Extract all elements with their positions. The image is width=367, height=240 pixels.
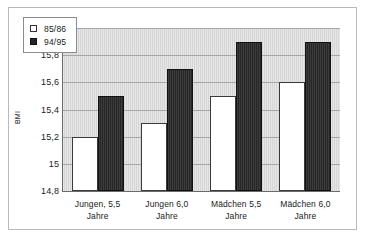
y-axis-tick-label: 15,2 bbox=[23, 132, 59, 142]
x-axis-category-label: Jungen 6,0Jahre bbox=[132, 198, 201, 222]
y-axis-tick-label: 15,4 bbox=[23, 105, 59, 115]
y-axis-tick-label: 15 bbox=[23, 159, 59, 169]
chart-figure: BMI 14,81515,215,415,615,816 85/86 94/95… bbox=[8, 7, 357, 230]
bar bbox=[236, 42, 262, 191]
chart-legend: 85/86 94/95 bbox=[23, 17, 77, 53]
legend-item-label: 85/86 bbox=[44, 24, 66, 34]
x-axis-category-label-line: Jahre bbox=[63, 210, 132, 222]
x-axis-category-label-line: Jungen, 5,5 bbox=[63, 198, 132, 210]
bar bbox=[305, 42, 331, 191]
bar-group bbox=[210, 28, 262, 191]
bar-group bbox=[141, 28, 193, 191]
y-axis-tick-label: 15,6 bbox=[23, 77, 59, 87]
x-axis-category-label-line: Jungen 6,0 bbox=[132, 198, 201, 210]
x-axis-category-label-line: Jahre bbox=[202, 210, 271, 222]
x-axis-category-label: Jungen, 5,5Jahre bbox=[63, 198, 132, 222]
legend-item: 94/95 bbox=[30, 35, 66, 48]
x-axis-category-label-line: Mädchen 5,5 bbox=[202, 198, 271, 210]
x-axis-category-label-line: Jahre bbox=[132, 210, 201, 222]
x-axis-category-label-line: Mädchen 6,0 bbox=[271, 198, 340, 210]
y-axis-tick-label: 14,8 bbox=[23, 186, 59, 196]
x-axis-category-label: Mädchen 5,5Jahre bbox=[202, 198, 271, 222]
x-axis-category-labels: Jungen, 5,5JahreJungen 6,0JahreMädchen 5… bbox=[63, 198, 340, 232]
bar bbox=[72, 137, 98, 191]
bar bbox=[98, 96, 124, 191]
legend-item: 85/86 bbox=[30, 22, 66, 35]
bar-series-container bbox=[63, 28, 340, 191]
filled-square-icon bbox=[30, 38, 37, 45]
bar bbox=[210, 96, 236, 191]
bar bbox=[167, 69, 193, 191]
x-axis-category-label: Mädchen 6,0Jahre bbox=[271, 198, 340, 222]
bar bbox=[141, 123, 167, 191]
legend-item-label: 94/95 bbox=[44, 37, 66, 47]
bar bbox=[279, 82, 305, 191]
x-axis-category-label-line: Jahre bbox=[271, 210, 340, 222]
plot-area bbox=[62, 28, 340, 192]
hollow-square-icon bbox=[30, 25, 37, 32]
bar-group bbox=[72, 28, 124, 191]
bar-group bbox=[279, 28, 331, 191]
